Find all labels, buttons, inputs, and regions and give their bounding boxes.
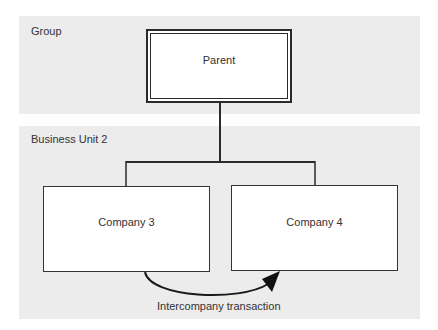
company-4-label: Company 4 bbox=[232, 216, 397, 228]
company-4-node: Company 4 bbox=[231, 185, 398, 271]
company-3-label: Company 3 bbox=[44, 216, 209, 228]
arrowhead-icon bbox=[262, 271, 280, 292]
company-3-node: Company 3 bbox=[43, 186, 210, 272]
parent-node: Parent bbox=[146, 29, 292, 103]
parent-label: Parent bbox=[151, 54, 287, 66]
intercompany-transaction-label: Intercompany transaction bbox=[157, 300, 281, 312]
parent-inner-border: Parent bbox=[150, 33, 288, 99]
intercompany-arc bbox=[145, 272, 268, 295]
